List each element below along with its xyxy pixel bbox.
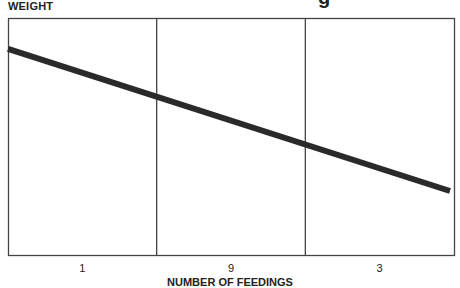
x-axis-label: NUMBER OF FEEDINGS (0, 276, 460, 288)
x-tick-label: 3 (360, 262, 400, 274)
chart (0, 0, 460, 288)
x-tick-label: 9 (211, 262, 251, 274)
plot-frame (9, 19, 455, 256)
trend-line (8, 49, 450, 191)
x-tick-label: 1 (62, 262, 102, 274)
